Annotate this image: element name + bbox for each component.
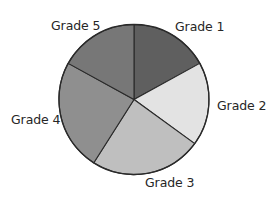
label-grade-2: Grade 2 xyxy=(217,99,266,113)
label-grade-5: Grade 5 xyxy=(51,19,100,33)
pie-slices xyxy=(59,25,209,175)
label-grade-4: Grade 4 xyxy=(11,113,60,127)
label-grade-3: Grade 3 xyxy=(145,176,194,190)
label-grade-1: Grade 1 xyxy=(175,20,224,34)
